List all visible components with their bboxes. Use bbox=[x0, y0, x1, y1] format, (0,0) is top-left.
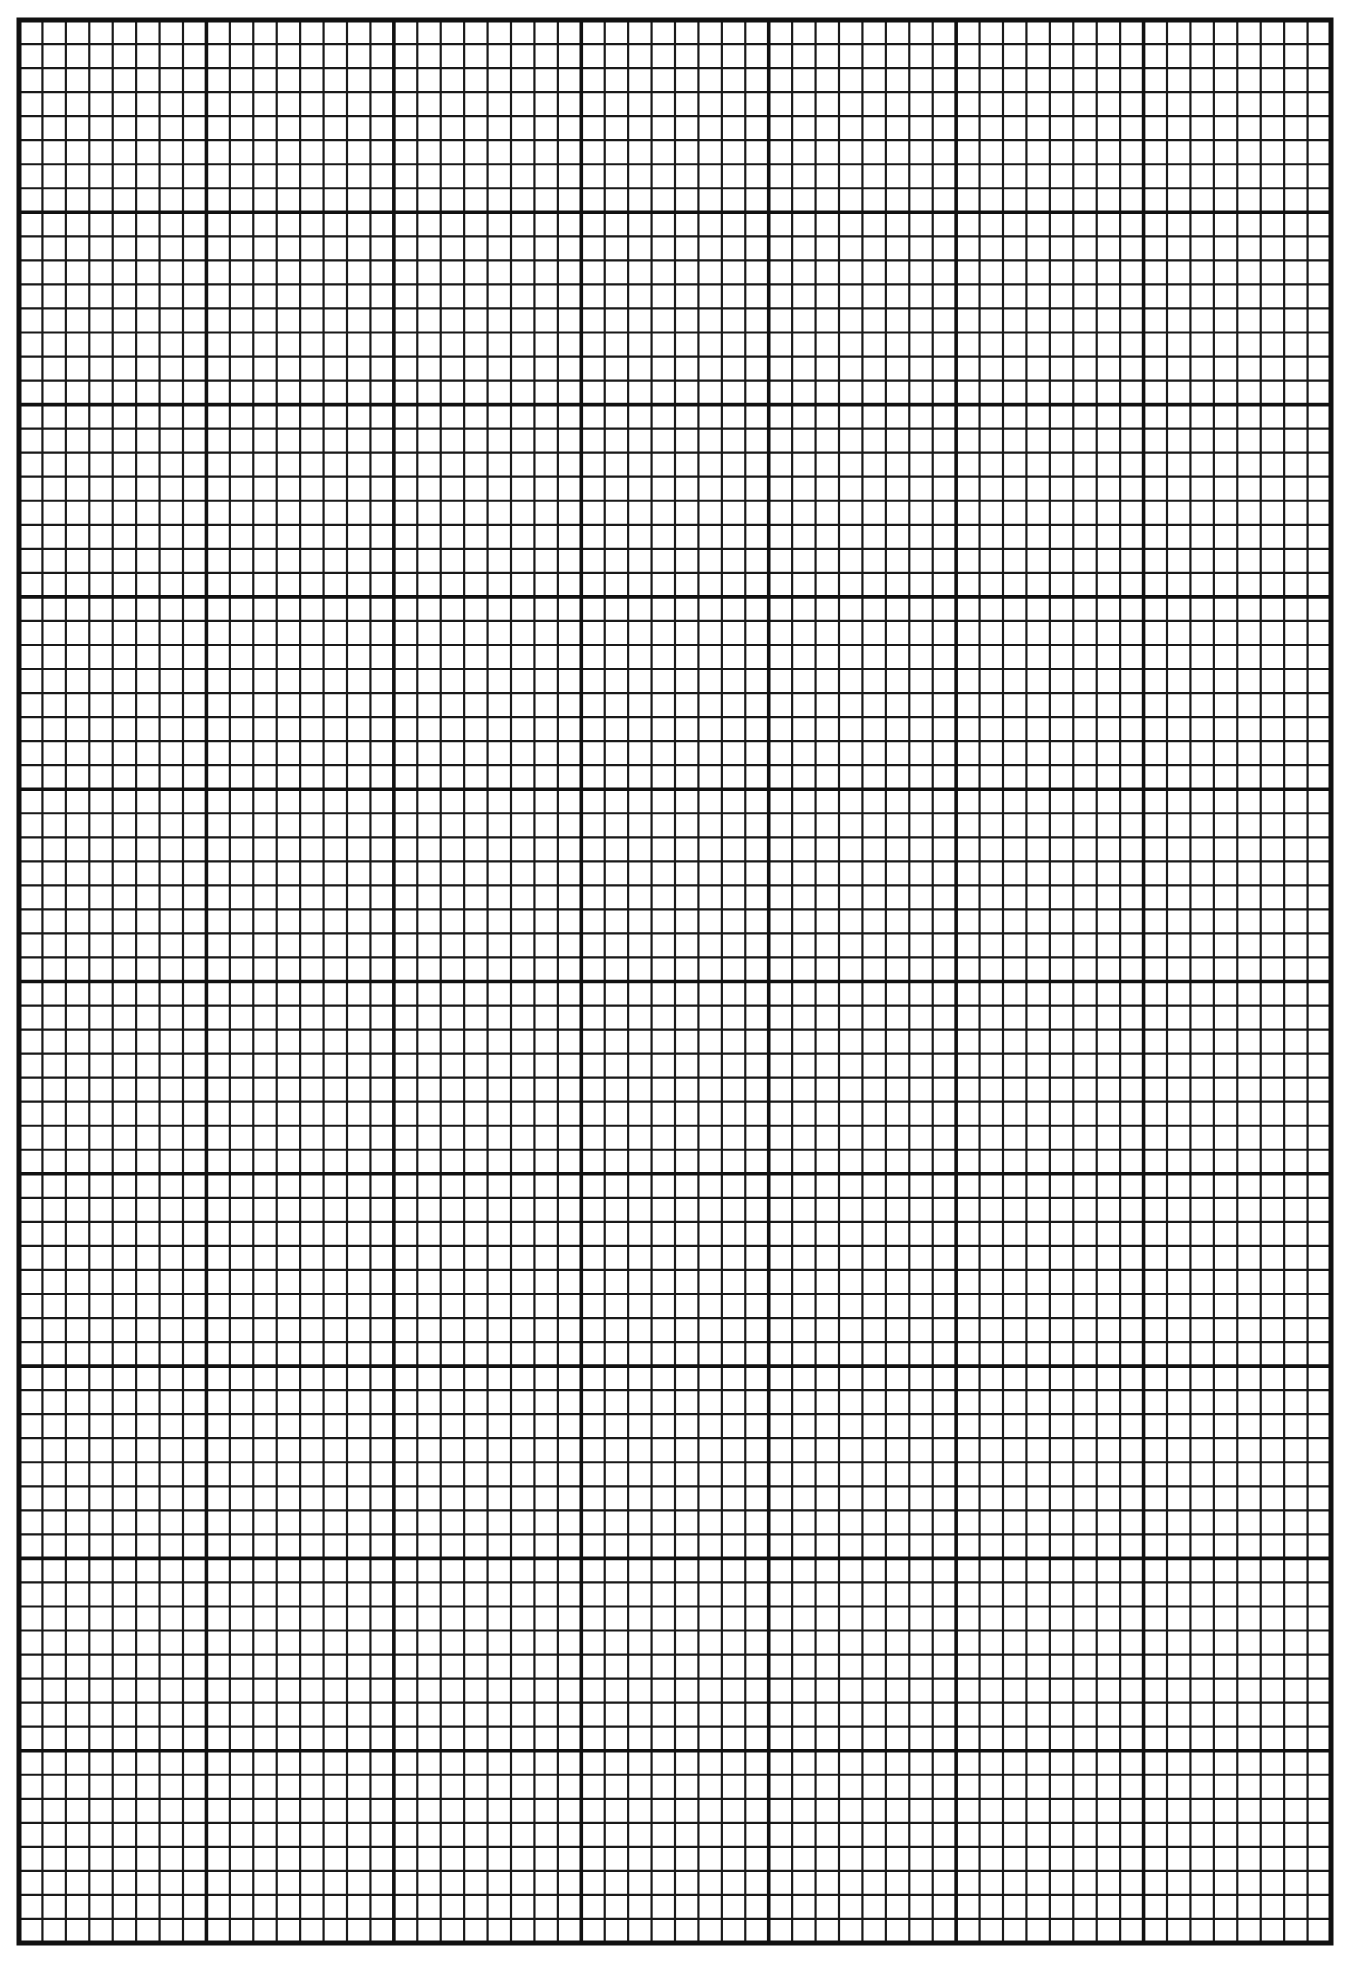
graph-paper-sheet bbox=[0, 0, 1351, 1966]
